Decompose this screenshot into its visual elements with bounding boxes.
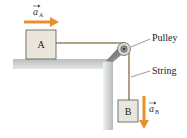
block-a: A [26,30,56,59]
acceleration-arrow-a-icon [24,17,59,27]
string-label: String [152,65,176,76]
acceleration-arrow-b-icon [139,96,149,129]
svg-text:A: A [39,12,44,18]
block-a-label: A [37,39,45,50]
pulley-icon [118,43,131,56]
pulley-callout: Pulley [131,32,178,47]
svg-text:a: a [33,6,38,17]
pulley-diagram: A B a A a B Pulley String [0,0,187,138]
svg-text:B: B [155,109,159,115]
table [13,59,113,130]
vector-label-b: a B [149,102,159,116]
block-b: B [118,100,138,122]
vector-label-a: a A [33,5,44,19]
pulley-label: Pulley [152,32,178,43]
svg-text:a: a [149,103,154,114]
block-b-label: B [125,106,132,117]
string-callout: String [131,65,176,77]
